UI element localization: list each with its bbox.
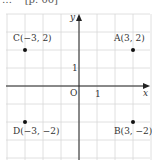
coordinate-plane: yxO11A(3, 2)B(3, −2)C(−3, 2)D(−3, −2) [0,0,152,160]
coordinate-diagram: … [p. 00] yxO11A(3, 2)B(3, −2)C(−3, 2)D(… [0,0,152,160]
point-a [131,48,135,52]
x-unit-label: 1 [95,89,101,99]
y-unit-label: 1 [72,63,78,73]
point-d [23,120,27,124]
y-axis-label: y [69,12,76,22]
point-label-d: D(−3, −2) [13,126,60,136]
point-label-a: A(3, 2) [113,33,145,43]
x-axis-label: x [143,88,148,98]
point-label-c: C(−3, 2) [13,33,52,43]
point-c [23,48,27,52]
header-text: [p. 00] [25,0,58,5]
y-axis-arrow-icon [76,14,82,21]
point-label-b: B(3, −2) [114,126,152,136]
origin-label: O [70,88,77,98]
page-reference: … [p. 00] [2,0,58,5]
point-b [131,120,135,124]
header-prefix: … [2,0,12,5]
